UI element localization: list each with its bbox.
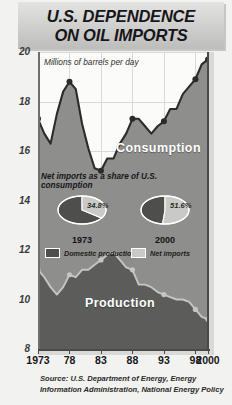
data-point <box>130 267 135 272</box>
inset-legend: Domestic production Net imports <box>41 248 205 260</box>
x-tick-label: 83 <box>95 354 107 366</box>
x-axis <box>38 349 210 351</box>
data-point <box>66 79 72 85</box>
legend-item-domestic-production: Domestic production <box>45 248 136 258</box>
pie-percent-2000: 51.6% <box>170 201 192 210</box>
inset-heading: Net imports as a share of U.S. consumpti… <box>41 172 205 190</box>
x-tick-mark <box>101 349 102 354</box>
pie-year-2000: 2000 <box>126 235 204 245</box>
y-tick-label: 14 <box>0 195 30 206</box>
data-point <box>161 292 166 297</box>
legend-label-domestic-production: Domestic production <box>64 249 136 258</box>
series-label-consumption: Consumption <box>116 141 201 155</box>
data-point <box>161 118 167 124</box>
y-tick-label: 20 <box>0 46 30 57</box>
x-tick-label: 2000 <box>196 354 219 366</box>
x-tick-mark <box>69 349 70 354</box>
page-title: U.S. DEPENDENCE ON OIL IMPORTS <box>18 3 224 48</box>
pie-svg-1973 <box>43 190 121 234</box>
x-tick-label: 93 <box>158 354 170 366</box>
legend-label-net-imports: Net imports <box>150 249 190 258</box>
pie-percent-1973: 34.8% <box>87 201 109 210</box>
title-line-2: ON OIL IMPORTS <box>54 26 187 45</box>
y-tick-label: 16 <box>0 145 30 156</box>
units-note: Millions of barrels per day <box>44 57 139 67</box>
x-tick-label: 78 <box>64 354 76 366</box>
pie-svg-2000 <box>126 190 204 234</box>
pie-chart-1973: 34.8% 1973 <box>43 190 121 234</box>
x-tick-mark <box>208 349 209 354</box>
y-tick-label: 12 <box>0 244 30 255</box>
title-line-1: U.S. DEPENDENCE <box>47 7 195 26</box>
series-label-production: Production <box>85 296 155 310</box>
pie-slice-domestic-production <box>141 196 165 224</box>
inset-panel: Net imports as a share of U.S. consumpti… <box>41 172 205 264</box>
x-tick-mark <box>38 349 39 354</box>
legend-swatch-icon <box>45 248 60 258</box>
y-tick-label: 10 <box>0 294 30 305</box>
x-tick-label: 1973 <box>26 354 49 366</box>
y-axis <box>38 52 40 350</box>
x-tick-label: 88 <box>127 354 139 366</box>
data-point <box>193 307 198 312</box>
x-tick-mark <box>132 349 133 354</box>
data-point <box>192 76 198 82</box>
data-point <box>129 116 135 122</box>
pie-chart-2000: 51.6% 2000 <box>126 190 204 234</box>
right-axis-rule <box>207 52 209 350</box>
x-tick-mark <box>164 349 165 354</box>
legend-item-net-imports: Net imports <box>131 248 190 258</box>
infographic-root: U.S. DEPENDENCE ON OIL IMPORTS 201816141… <box>0 0 232 405</box>
data-point <box>67 272 72 277</box>
y-tick-label: 18 <box>0 96 30 107</box>
pie-year-1973: 1973 <box>43 235 121 245</box>
legend-swatch-icon <box>131 248 146 258</box>
y-tick-label: 8 <box>0 343 30 354</box>
source-note: Source: U.S. Department of Energy, Energ… <box>40 374 230 395</box>
